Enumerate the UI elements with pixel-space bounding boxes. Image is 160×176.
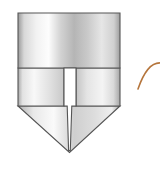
- illustration-canvas: [0, 0, 160, 176]
- middle-band-left: [18, 68, 64, 106]
- leader-arc: [138, 63, 160, 89]
- shield-fixture-illustration: [0, 0, 160, 176]
- middle-band-right: [76, 68, 120, 106]
- upper-rectangular-body: [18, 13, 120, 68]
